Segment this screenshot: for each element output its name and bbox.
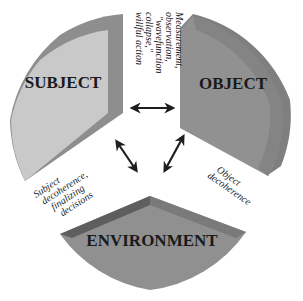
subject-label: SUBJECT (25, 73, 102, 92)
subject-object-caption: Measurement, observation, "wavefunction … (134, 11, 185, 74)
subject-environment-arrow (117, 142, 136, 170)
subject-environment-caption: Subject decoherence, finalizing decision… (31, 160, 100, 225)
environment-segment: ENVIRONMENT (60, 196, 246, 290)
subject-segment: SUBJECT (10, 14, 123, 181)
object-environment-caption: Object decoherence (206, 161, 260, 207)
subject-segment-face (11, 30, 108, 181)
caption-line: willful action (134, 12, 145, 65)
object-label: OBJECT (199, 74, 268, 93)
object-segment: OBJECT (180, 14, 291, 176)
object-environment-arrow (165, 137, 183, 170)
environment-label: ENVIRONMENT (86, 231, 218, 250)
subject-object-environment-diagram: SUBJECT OBJECT ENVIRONMENT Measurement, … (0, 0, 303, 301)
